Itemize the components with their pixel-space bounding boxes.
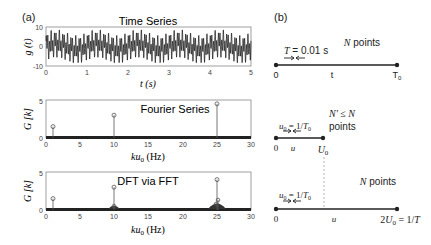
x-tick: 5 — [78, 141, 82, 148]
count-label: N points — [359, 176, 396, 187]
axis-end: T0 — [393, 70, 403, 81]
y-tick: 0 — [39, 135, 43, 142]
x-axis-label: ku0 (Hz) — [131, 151, 165, 164]
axis-end: U0 — [318, 144, 329, 157]
x-axis-label: t (s) — [140, 78, 157, 90]
x-tick: 0 — [44, 213, 48, 220]
axis-mid: u — [291, 143, 296, 153]
x-tick: 4 — [208, 69, 212, 76]
sampling-diagram: T = 0.01 s N points 0 t T0 u0 = 1/T0 N' … — [273, 37, 421, 227]
x-tick: 30 — [247, 141, 255, 148]
panel-b-label: (b) — [274, 11, 287, 23]
x-tick: 0 — [44, 69, 48, 76]
x-tick: 10 — [110, 141, 118, 148]
time-series-plot: Time Series 10 0 -10 0 1 2 3 4 5 t (s) g… — [22, 15, 253, 90]
x-axis-label: ku0 (Hz) — [131, 224, 165, 237]
spacing-label-u0: u0 = 1/T0 — [279, 121, 311, 132]
x-tick: 2 — [126, 69, 130, 76]
x-tick: 3 — [167, 69, 171, 76]
y-tick: 0 — [39, 43, 43, 50]
axis-start: 0 — [274, 214, 279, 224]
x-tick: 1 — [85, 69, 89, 76]
fourier-series-plot: Fourier Series 5 0 0 5 10 15 20 25 30 ku… — [22, 98, 255, 164]
y-axis-label: G [k] — [22, 108, 33, 130]
x-tick: 15 — [144, 213, 152, 220]
x-tick: 30 — [247, 213, 255, 220]
x-tick: 5 — [78, 213, 82, 220]
panel-a-label: (a) — [22, 11, 35, 23]
axis-start: 0 — [274, 143, 279, 153]
axis-mid: u — [332, 214, 337, 224]
axis-mid: t — [331, 70, 334, 80]
dft-fft-title: DFT via FFT — [117, 175, 179, 187]
x-tick: 0 — [44, 141, 48, 148]
dft-fft-plot: DFT via FFT 5 0 0 5 10 15 20 25 30 ku0 (… — [22, 170, 255, 237]
x-tick: 5 — [249, 69, 253, 76]
count-label: N' ≤ N — [328, 108, 356, 119]
y-tick: 5 — [39, 98, 43, 105]
zero-stems-band — [46, 136, 251, 139]
x-tick: 25 — [213, 141, 221, 148]
figure: (a) (b) Time Series 10 0 -10 0 1 2 3 4 5… — [0, 0, 431, 245]
y-tick: 10 — [35, 24, 43, 31]
dft-axis-row: u0 = 1/T0 N points 0 u 2U0 = 1/T — [274, 176, 422, 227]
count-label: N points — [343, 37, 380, 48]
y-tick: 0 — [39, 207, 43, 214]
y-axis-label: G [k] — [22, 180, 33, 202]
x-tick: 20 — [179, 213, 187, 220]
count-label-points: points — [329, 121, 356, 132]
y-axis-label: g (t) — [22, 38, 34, 56]
x-tick: 10 — [110, 213, 118, 220]
x-tick: 20 — [179, 141, 187, 148]
y-tick: 5 — [39, 170, 43, 177]
fourier-series-title: Fourier Series — [140, 103, 210, 115]
time-series-title: Time Series — [119, 15, 178, 27]
x-tick: 15 — [144, 141, 152, 148]
axis-start: 0 — [273, 70, 278, 80]
axis-end: 2U0 = 1/T — [380, 214, 421, 227]
x-tick: 25 — [213, 213, 221, 220]
time-axis-row: T = 0.01 s N points 0 t T0 — [273, 37, 402, 81]
y-tick: -10 — [33, 63, 43, 70]
spacing-label-T: T = 0.01 s — [284, 45, 328, 56]
